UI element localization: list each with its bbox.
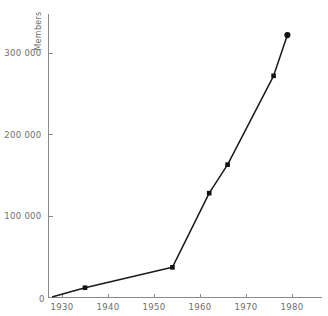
- data-point-markers: [83, 32, 291, 290]
- data-point-marker: [207, 191, 212, 196]
- x-tick-label: 1970: [235, 302, 258, 312]
- data-point-marker: [170, 265, 175, 270]
- origin-tick-label: 0: [39, 294, 44, 304]
- data-point-marker: [225, 162, 230, 167]
- y-axis-ticks: 100 000200 000300 000: [4, 48, 52, 221]
- y-tick-label: 200 000: [4, 130, 41, 140]
- y-tick-label: 100 000: [4, 211, 41, 221]
- data-point-marker: [271, 74, 276, 79]
- x-tick-label: 1960: [189, 302, 212, 312]
- chart-svg: 100 000200 000300 000 193019401950196019…: [0, 0, 328, 316]
- data-point-marker: [284, 32, 290, 38]
- x-axis-ticks: 193019401950196019701980: [51, 294, 304, 312]
- series-line-members: [53, 35, 288, 297]
- x-tick-label: 1950: [143, 302, 166, 312]
- x-tick-label: 1930: [51, 302, 74, 312]
- y-axis-title: Members: [34, 11, 43, 50]
- x-tick-label: 1980: [281, 302, 304, 312]
- data-point-marker: [83, 285, 88, 290]
- x-tick-label: 1940: [97, 302, 120, 312]
- data-series-members: [53, 35, 288, 297]
- chart-figure: 100 000200 000300 000 193019401950196019…: [0, 0, 328, 316]
